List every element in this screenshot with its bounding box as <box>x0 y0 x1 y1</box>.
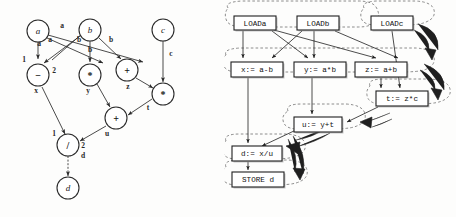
instruction-box-loadb[interactable]: LOADb <box>297 16 341 32</box>
edge-label: c <box>169 49 173 58</box>
instruction-label: x:= a-b <box>241 66 273 74</box>
instruction-box-ybox[interactable]: y:= a*b <box>294 62 348 79</box>
node-label: + <box>124 65 130 76</box>
edge-label: a <box>48 35 52 44</box>
value-name-mul1: y <box>86 86 90 95</box>
edge-label: b <box>109 35 113 44</box>
dependence-graph-panel: abc−*+*+/d xyztud 1212 aaabbbc <box>0 0 228 217</box>
instruction-box-zbox[interactable]: z:= a+b <box>355 62 409 79</box>
instruction-label: z:= a+b <box>365 66 397 74</box>
graph-node-b[interactable]: b <box>79 19 101 41</box>
port-label: 2 <box>81 141 85 150</box>
node-label: c <box>161 25 165 35</box>
graph-node-mul2[interactable]: * <box>152 83 174 105</box>
figure-canvas: abc−*+*+/d xyztud 1212 aaabbbc <box>0 0 456 217</box>
graph-node-add2[interactable]: + <box>105 107 127 129</box>
edge-loadb-z <box>335 31 398 58</box>
value-name-add2: u <box>105 129 109 138</box>
left-node-names: xyztud <box>34 82 150 160</box>
graph-node-mul1[interactable]: * <box>79 64 101 86</box>
instruction-label: STORE d <box>242 176 274 184</box>
edge-add1-mul2 <box>136 78 153 88</box>
edge-loadb-x <box>272 31 302 58</box>
value-name-div: d <box>81 151 86 160</box>
port-label: 1 <box>22 55 26 64</box>
edge-label: b <box>88 45 92 54</box>
instruction-box-ubox[interactable]: u:= y+t <box>294 117 344 134</box>
node-label: − <box>35 70 41 81</box>
graph-node-div[interactable]: / <box>57 134 79 156</box>
instruction-label: t:= z*c <box>386 95 418 103</box>
port-label: 1 <box>52 129 56 138</box>
edge-loadc-t <box>392 31 400 88</box>
node-label: b <box>88 25 93 35</box>
node-label: * <box>161 89 166 100</box>
instruction-boxes: LOADaLOADbLOADcx:= a-by:= a*bz:= a+bt:= … <box>231 16 430 189</box>
instruction-label: u:= y+t <box>302 121 334 129</box>
graph-node-sub[interactable]: − <box>27 64 49 86</box>
instruction-label: LOADa <box>244 20 267 28</box>
port-label: 2 <box>52 66 56 75</box>
value-name-mul2: t <box>147 103 150 112</box>
edge-a-mul1 <box>47 38 103 63</box>
value-name-sub: x <box>34 86 38 95</box>
edge-label: a <box>60 21 64 30</box>
instruction-box-loada[interactable]: LOADa <box>234 16 278 32</box>
graph-node-d[interactable]: d <box>57 177 79 199</box>
value-name-add1: z <box>126 82 130 91</box>
graph-node-c[interactable]: c <box>152 19 174 41</box>
node-label: d <box>66 183 71 193</box>
instruction-box-xbox[interactable]: x:= a-b <box>231 62 285 79</box>
left-nodes: abc−*+*+/d <box>27 19 174 199</box>
node-label: + <box>113 113 119 124</box>
order-arrow-1 <box>414 24 438 60</box>
node-label: a <box>36 26 41 36</box>
edge-sub-div <box>42 87 65 134</box>
instruction-box-tbox[interactable]: t:= z*c <box>376 91 430 108</box>
instruction-label: LOADb <box>307 20 330 28</box>
edge-mul1-add2 <box>97 84 110 107</box>
instruction-box-storebox[interactable]: STORE d <box>232 172 286 189</box>
instruction-box-dbox[interactable]: d:= x/u <box>232 146 284 163</box>
instruction-box-loadc[interactable]: LOADc <box>371 16 415 32</box>
node-label: / <box>66 140 70 151</box>
instruction-label: LOADc <box>381 20 404 28</box>
edge-label: b <box>77 35 81 44</box>
graph-node-add1[interactable]: + <box>116 59 138 81</box>
instruction-label: y:= a*b <box>304 66 336 74</box>
edge-add2-div <box>80 126 106 141</box>
edge-label: a <box>37 39 41 48</box>
left-edges <box>38 33 163 176</box>
order-arrow-5 <box>288 136 305 180</box>
order-arrow-3 <box>360 113 392 128</box>
edge-loada-y <box>272 31 308 58</box>
node-label: * <box>88 70 93 81</box>
instruction-label: d:= x/u <box>241 150 273 158</box>
schedule-graph-panel: LOADaLOADbLOADcx:= a-by:= a*bz:= a+bt:= … <box>224 0 456 217</box>
